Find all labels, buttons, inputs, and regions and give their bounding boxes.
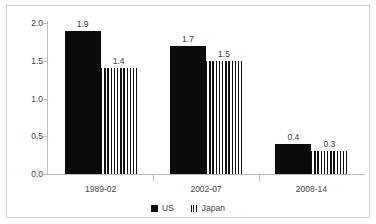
bar-group: 1.91.4	[48, 23, 153, 174]
y-axis-tick-label: 1.0	[31, 94, 43, 104]
category-separator-tick	[153, 175, 154, 181]
bar-japan-2002-07[interactable]: 1.5	[206, 61, 242, 174]
legend-item-japan[interactable]: Japan	[191, 203, 225, 213]
bar-value-label: 1.4	[113, 56, 125, 66]
chart-legend: USJapan	[7, 203, 369, 213]
bar-value-label: 0.3	[323, 139, 335, 149]
y-axis-tick-label: 2.0	[31, 18, 43, 28]
y-axis-tick-label: 0.5	[31, 131, 43, 141]
bar-value-label: 1.9	[77, 19, 89, 29]
legend-label: US	[162, 203, 174, 213]
category-separator-tick	[259, 175, 260, 181]
x-axis-category-label: 1989-02	[85, 184, 116, 194]
y-axis-tick	[43, 174, 48, 175]
bar-us-2002-07[interactable]: 1.7	[170, 46, 206, 174]
plot-area: 1.91.41.71.50.40.3	[48, 23, 364, 174]
x-axis-baseline	[47, 174, 365, 175]
bar-us-1989-02[interactable]: 1.9	[65, 31, 101, 174]
bar-us-2008-14[interactable]: 0.4	[275, 144, 311, 174]
bar-japan-2008-14[interactable]: 0.3	[311, 151, 347, 174]
bar-japan-1989-02[interactable]: 1.4	[101, 68, 137, 174]
bar-value-label: 1.7	[182, 34, 194, 44]
x-axis-category-label: 2008-14	[296, 184, 327, 194]
bar-value-label: 0.4	[287, 132, 299, 142]
y-axis-tick-label: 0.0	[31, 169, 43, 179]
chart-frame: 0.00.51.01.52.0 1.91.41.71.50.40.3 1989-…	[6, 5, 370, 218]
bar-value-label: 1.5	[218, 49, 230, 59]
x-axis-category-label: 2002-07	[190, 184, 221, 194]
bar-group: 1.71.5	[153, 23, 258, 174]
y-axis-tick-label: 1.5	[31, 56, 43, 66]
legend-swatch-us-icon	[151, 205, 158, 212]
legend-label: Japan	[202, 203, 225, 213]
bar-group: 0.40.3	[259, 23, 364, 174]
legend-item-us[interactable]: US	[151, 203, 174, 213]
legend-swatch-japan-icon	[191, 205, 198, 212]
